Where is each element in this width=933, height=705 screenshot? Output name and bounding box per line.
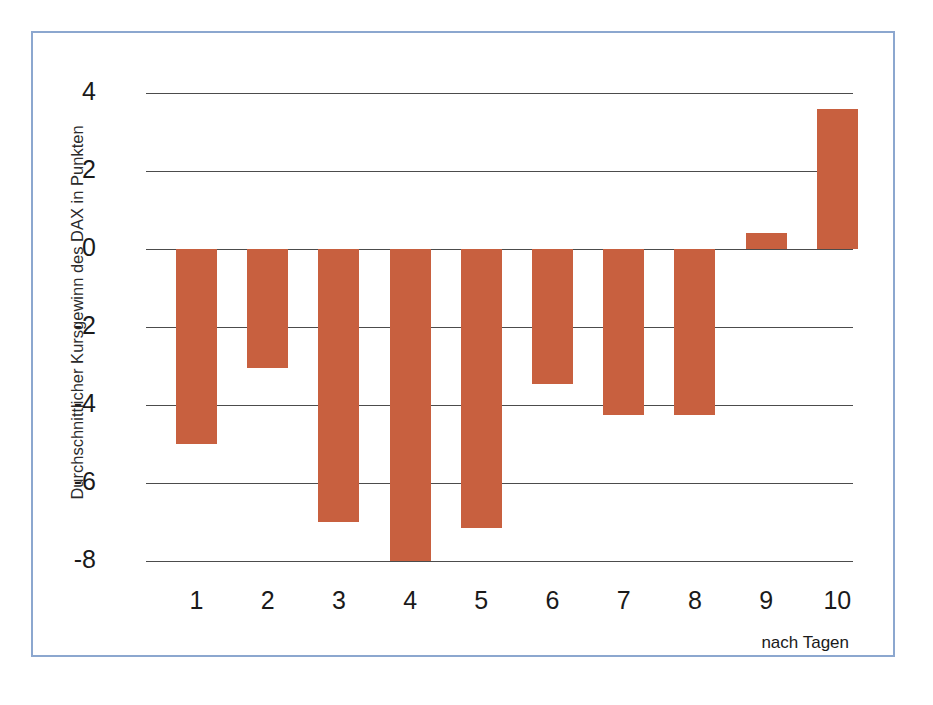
gridline bbox=[146, 561, 853, 562]
x-axis-tick-label: 9 bbox=[746, 586, 787, 615]
y-axis-tick-label: 4 bbox=[36, 77, 96, 106]
x-axis-tick-label: 8 bbox=[674, 586, 715, 615]
x-axis-title: nach Tagen bbox=[761, 633, 849, 653]
y-axis-tick-label: -6 bbox=[36, 467, 96, 496]
bar bbox=[318, 249, 359, 522]
y-axis-tick-label: 0 bbox=[36, 233, 96, 262]
bar bbox=[532, 249, 573, 384]
bar bbox=[390, 249, 431, 561]
y-axis-tick-label: -8 bbox=[36, 545, 96, 574]
bar bbox=[746, 233, 787, 249]
x-axis-tick-label: 3 bbox=[318, 586, 359, 615]
bar bbox=[603, 249, 644, 415]
bar bbox=[247, 249, 288, 368]
x-axis-tick-label: 4 bbox=[390, 586, 431, 615]
chart-frame: 420-2-4-6-8 12345678910 nach Tagen Durch… bbox=[31, 31, 895, 657]
bar bbox=[674, 249, 715, 415]
x-axis-tick-label: 1 bbox=[176, 586, 217, 615]
x-axis-tick-label: 2 bbox=[247, 586, 288, 615]
y-axis-title: Durchschnittlicher Kursgewinn des DAX in… bbox=[68, 103, 87, 523]
x-axis-tick-label: 7 bbox=[603, 586, 644, 615]
gridline bbox=[146, 93, 853, 94]
gridline bbox=[146, 171, 853, 172]
bar bbox=[461, 249, 502, 528]
bar-chart-plot-area: 420-2-4-6-8 12345678910 nach Tagen Durch… bbox=[33, 33, 893, 655]
y-axis-tick-label: 2 bbox=[36, 155, 96, 184]
bar bbox=[817, 109, 858, 249]
x-axis-tick-label: 5 bbox=[461, 586, 502, 615]
y-axis-tick-label: -2 bbox=[36, 311, 96, 340]
y-axis-tick-label: -4 bbox=[36, 389, 96, 418]
x-axis-tick-label: 10 bbox=[817, 586, 858, 615]
bar bbox=[176, 249, 217, 444]
x-axis-tick-label: 6 bbox=[532, 586, 573, 615]
